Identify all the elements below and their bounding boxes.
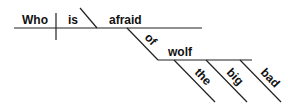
word-modifier-big: big xyxy=(224,65,247,88)
word-modifier-the: the xyxy=(192,65,215,88)
predicate-adjective-slash xyxy=(80,8,97,28)
sentence-diagram: Who is afraid of wolf the big bad xyxy=(0,0,288,110)
word-modifier-bad: bad xyxy=(258,65,283,90)
word-object: wolf xyxy=(167,45,193,59)
word-subject: Who xyxy=(22,13,48,27)
word-verb: is xyxy=(68,13,78,27)
word-predicate-adjective: afraid xyxy=(109,13,142,27)
